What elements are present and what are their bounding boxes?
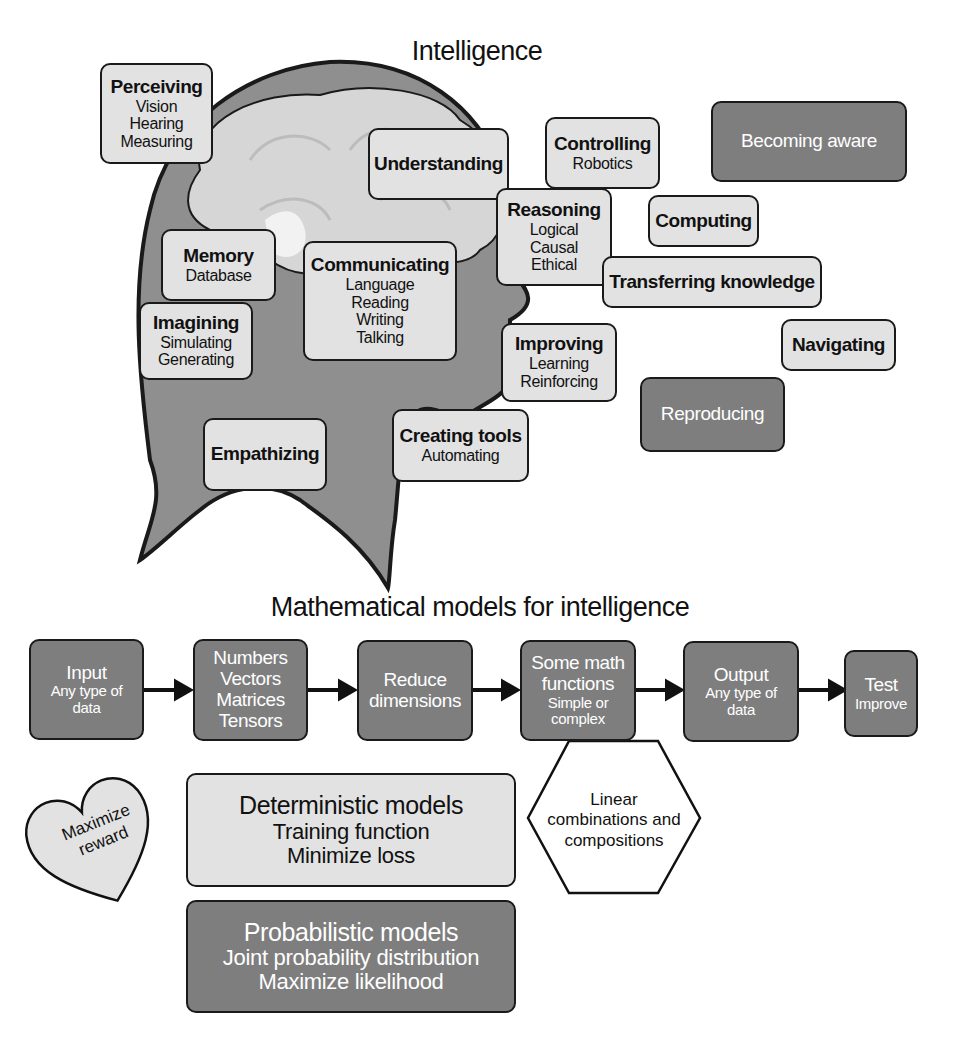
box-line: Talking xyxy=(356,329,404,347)
box-line: Writing xyxy=(356,311,403,329)
box-imagining: Imagining Simulating Generating xyxy=(139,302,253,380)
box-heading: Some math xyxy=(531,653,625,674)
intelligence-title: Intelligence xyxy=(392,36,562,67)
box-heading: Transferring knowledge xyxy=(609,272,815,293)
box-becoming-aware: Becoming aware xyxy=(711,101,907,182)
box-line: Ethical xyxy=(531,256,577,274)
box-heading: Memory xyxy=(183,246,253,267)
flow-box-reduce-dimensions: Reduce dimensions xyxy=(357,640,473,741)
box-line: Training function xyxy=(273,820,430,844)
box-line: Maximize likelihood xyxy=(258,970,443,994)
box-line: Simulating xyxy=(160,334,232,352)
box-heading: Computing xyxy=(655,211,752,232)
box-line: Joint probability distribution xyxy=(223,946,479,970)
box-improving: Improving Learning Reinforcing xyxy=(501,323,617,402)
box-heading: Understanding xyxy=(374,154,503,175)
box-line: data xyxy=(727,702,755,719)
box-computing: Computing xyxy=(648,195,759,247)
flow-box-numbers: Numbers Vectors Matrices Tensors xyxy=(193,639,308,741)
box-transferring-knowledge: Transferring knowledge xyxy=(602,256,822,308)
box-line: Generating xyxy=(158,351,234,369)
box-line: Matrices xyxy=(216,690,285,711)
box-heading: Imagining xyxy=(153,313,239,334)
box-heading: Improving xyxy=(515,334,603,355)
hexagon-label: Linear combinations and compositions xyxy=(530,790,698,851)
box-line: Database xyxy=(185,267,251,285)
box-line: Any type of xyxy=(51,683,123,700)
box-line: Reinforcing xyxy=(520,373,598,391)
box-probabilistic-models: Probabilistic models Joint probability d… xyxy=(186,900,516,1013)
box-heading: Perceiving xyxy=(110,77,202,98)
box-line: Logical xyxy=(530,221,579,239)
box-heading: Test xyxy=(864,675,897,696)
box-heading: Numbers xyxy=(213,648,287,669)
hexagon-line: compositions xyxy=(530,831,698,851)
box-line: dimensions xyxy=(369,691,461,712)
box-line: Learning xyxy=(529,355,589,373)
box-communicating: Communicating Language Reading Writing T… xyxy=(303,241,457,361)
box-deterministic-models: Deterministic models Training function M… xyxy=(186,773,516,887)
models-title: Mathematical models for intelligence xyxy=(230,592,730,623)
hexagon-line: Linear xyxy=(530,790,698,810)
box-heading: Controlling xyxy=(554,134,651,155)
box-line: Hearing xyxy=(130,115,184,133)
box-heading: Empathizing xyxy=(211,444,320,465)
box-reasoning: Reasoning Logical Causal Ethical xyxy=(496,188,612,286)
box-line: Vision xyxy=(136,98,178,116)
box-controlling: Controlling Robotics xyxy=(545,117,660,189)
box-heading: Reduce xyxy=(383,670,446,691)
box-line: complex xyxy=(551,711,605,728)
box-line: Causal xyxy=(530,239,578,257)
box-navigating: Navigating xyxy=(781,319,896,371)
box-heading: Navigating xyxy=(792,335,885,356)
flow-box-input: Input Any type of data xyxy=(29,639,144,740)
flow-box-output: Output Any type of data xyxy=(683,641,799,742)
box-line: Language xyxy=(346,276,415,294)
flow-box-test: Test Improve xyxy=(844,650,918,737)
hexagon-line: combinations and xyxy=(530,810,698,830)
box-line: data xyxy=(73,700,101,717)
box-creating-tools: Creating tools Automating xyxy=(392,409,529,482)
box-line: Minimize loss xyxy=(287,844,415,868)
flow-box-math-functions: Some math functions Simple or complex xyxy=(520,640,636,741)
box-heading: Becoming aware xyxy=(741,131,877,152)
box-heading: Input xyxy=(66,663,106,684)
box-line: Improve xyxy=(855,696,907,713)
box-heading: Communicating xyxy=(311,255,449,276)
box-line: Simple or xyxy=(548,695,609,712)
box-line: Measuring xyxy=(120,133,192,151)
box-empathizing: Empathizing xyxy=(203,418,327,491)
box-line: Robotics xyxy=(573,155,633,173)
box-heading: Reproducing xyxy=(661,404,764,425)
box-line: Reading xyxy=(351,294,409,312)
box-reproducing: Reproducing xyxy=(640,377,785,452)
box-line: functions xyxy=(542,674,614,695)
box-line: Vectors xyxy=(220,669,281,690)
box-heading: Output xyxy=(714,665,769,686)
box-line: Any type of xyxy=(705,685,777,702)
box-line: Tensors xyxy=(219,711,283,732)
box-heading: Deterministic models xyxy=(239,792,463,820)
box-memory: Memory Database xyxy=(161,229,276,301)
box-heading: Probabilistic models xyxy=(244,919,458,947)
box-heading: Reasoning xyxy=(507,200,601,221)
box-heading: Creating tools xyxy=(399,426,521,447)
box-line: Automating xyxy=(422,447,500,465)
box-understanding: Understanding xyxy=(368,128,509,200)
box-perceiving: Perceiving Vision Hearing Measuring xyxy=(100,63,213,164)
